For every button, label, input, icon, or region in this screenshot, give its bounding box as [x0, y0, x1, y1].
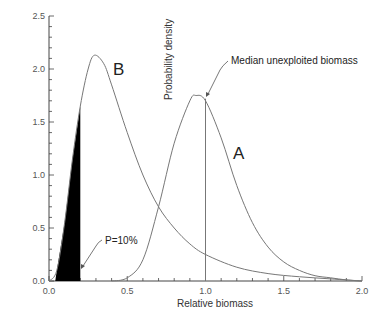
y-tick-label: 2.0 [32, 64, 45, 74]
y-tick-label: 0.5 [32, 223, 45, 233]
curve-a-label: A [233, 144, 245, 163]
x-tick-label: 1.5 [277, 286, 290, 296]
p10-arrowhead [81, 264, 85, 269]
x-tick-label: 2.0 [356, 286, 369, 296]
median-arrowhead [206, 92, 210, 97]
axes: 0.00.51.01.52.00.00.51.01.52.02.5 [32, 11, 368, 296]
y-axis-label: Probability density [163, 19, 174, 100]
curve-b-label: B [113, 60, 124, 79]
x-axis-label: Relative biomass [177, 298, 253, 309]
y-tick-label: 0.0 [32, 276, 45, 286]
median-arrow [208, 61, 228, 94]
x-tick-label: 0.0 [43, 286, 56, 296]
y-tick-label: 2.5 [32, 11, 45, 21]
x-tick-label: 0.5 [121, 286, 134, 296]
chart-svg: 0.00.51.01.52.00.00.51.01.52.02.5 Probab… [0, 0, 378, 319]
x-tick-label: 1.0 [199, 286, 212, 296]
p10-arrow [83, 240, 102, 266]
chart: 0.00.51.01.52.00.00.51.01.52.02.5 Probab… [0, 0, 378, 319]
median-annotation: Median unexploited biomass [231, 55, 358, 66]
p10-annotation: P=10% [105, 235, 138, 246]
y-tick-label: 1.0 [32, 170, 45, 180]
y-tick-label: 1.5 [32, 117, 45, 127]
